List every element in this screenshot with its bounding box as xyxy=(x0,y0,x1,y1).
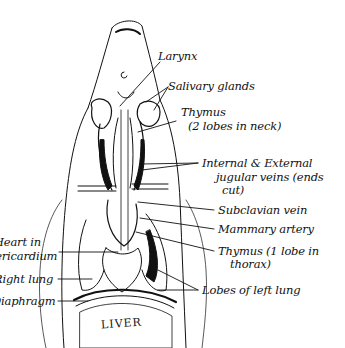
label-larynx: Larynx xyxy=(158,50,197,62)
label-heart: Heart in xyxy=(0,236,41,248)
heart xyxy=(103,248,142,292)
label-salivary-glands: Salivary glands xyxy=(168,80,255,92)
label-diaphragm: Diaphragm xyxy=(0,295,55,307)
salivary-gland-left xyxy=(91,99,111,128)
label-thymus-neck-note: (2 lobes in neck) xyxy=(188,120,281,132)
label-left-lung: Lobes of left lung xyxy=(202,284,300,296)
right-lung xyxy=(79,220,104,290)
label-mammary-artery: Mammary artery xyxy=(218,223,314,235)
label-thymus-thorax: Thymus (1 lobe in xyxy=(218,245,319,257)
label-thymus-thorax-note: thorax) xyxy=(230,258,271,270)
label-jugular-veins-line3: cut) xyxy=(222,184,244,196)
label-subclavian-vein: Subclavian vein xyxy=(218,204,307,216)
body-outline-left xyxy=(62,108,88,348)
label-jugular-veins-line2: jugular veins (ends xyxy=(216,171,324,183)
label-jugular-veins: Internal & External xyxy=(202,157,312,169)
trachea xyxy=(121,110,128,250)
label-right-lung: Right lung xyxy=(0,273,53,285)
thymus-thorax xyxy=(107,200,137,246)
anatomy-diagram: Larynx Salivary glands Thymus (2 lobes i… xyxy=(0,0,345,348)
label-thymus-neck: Thymus xyxy=(181,106,226,118)
label-heart-pericardium: pericardium xyxy=(0,250,57,262)
